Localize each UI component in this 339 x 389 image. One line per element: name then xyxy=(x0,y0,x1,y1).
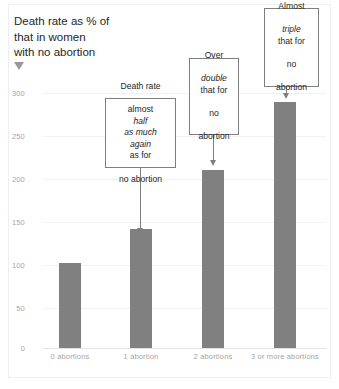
x-axis-labels: 0 abortions 1 abortion 2 abortions 3 or … xyxy=(43,352,326,370)
callout-1-line-4b: as for xyxy=(119,150,162,162)
plot-area: 300 250 200 150 100 50 0 xyxy=(43,90,326,348)
y-tick-label: 100 xyxy=(0,261,25,270)
x-label-2: 2 abortions xyxy=(194,352,233,361)
x-label-1: 1 abortion xyxy=(124,352,159,361)
callout-1-line-4a: again xyxy=(130,139,151,149)
bar-3-or-more-abortions xyxy=(274,102,296,349)
bar-1-abortion xyxy=(130,229,152,348)
y-tick-label: 0 xyxy=(0,344,25,353)
bar-2-abortions xyxy=(202,170,224,349)
callout-3-line-3: that for xyxy=(276,36,307,48)
callout-2-line-5: abortion xyxy=(198,131,229,143)
y-tick-label: 250 xyxy=(0,132,25,141)
callout-box-1-abortion: Death rate almost half as much again as … xyxy=(105,98,176,168)
callout-3-line-1: Almost xyxy=(276,1,307,13)
callout-3-line-5: abortion xyxy=(276,82,307,94)
y-tick-label: 300 xyxy=(0,89,25,98)
callout-2-line-3: that for xyxy=(198,85,229,97)
callout-2-line-4: no xyxy=(198,108,229,120)
callout-3-line-2: triple xyxy=(282,24,301,34)
callout-1-line-3: as much xyxy=(124,127,156,137)
arrowhead-3 xyxy=(283,93,289,99)
callout-2-line-2: double xyxy=(201,73,227,83)
callout-box-3-or-more-abortions: Almost triple that for no abortion xyxy=(264,8,319,87)
arrowhead-1 xyxy=(137,228,143,234)
callout-1-line-5: no abortion xyxy=(119,174,162,186)
y-tick-label: 50 xyxy=(0,304,25,313)
down-triangle-icon xyxy=(14,62,24,70)
x-label-0: 0 abortions xyxy=(51,352,90,361)
arrowhead-2 xyxy=(210,160,216,166)
bar-0-abortions xyxy=(59,263,81,348)
callout-3-line-4: no xyxy=(276,59,307,71)
gridline-0 xyxy=(43,348,326,349)
x-label-3: 3 or more abortions xyxy=(251,352,319,361)
callout-1-line-2a: almost xyxy=(119,104,162,116)
y-axis-title: Death rate as % of that in women with no… xyxy=(14,14,164,61)
callout-1-line-1: Death rate xyxy=(119,81,162,93)
y-tick-label: 200 xyxy=(0,175,25,184)
callout-box-2-abortions: Over double that for no abortion xyxy=(189,58,239,135)
abortion-death-rate-bar-chart: Death rate as % of that in women with no… xyxy=(0,0,339,389)
callout-1-line-2b: half xyxy=(134,116,148,126)
y-tick-label: 150 xyxy=(0,218,25,227)
callout-2-line-1: Over xyxy=(198,50,229,62)
